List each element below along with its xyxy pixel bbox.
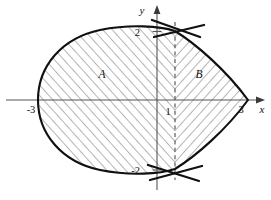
y-axis-arrowhead [154,5,161,14]
region-label-a: A [97,68,106,80]
y-tick-label-minus-2: -2 [131,165,140,176]
y-tick-label-2: 2 [135,27,140,38]
x-tick-label-minus-3: -3 [27,104,36,115]
figure-container: y x 2 -2 -3 3 1 A B [0,0,271,200]
x-axis-label: x [259,103,265,115]
x-tick-label-1: 1 [165,106,170,117]
region-label-b: B [195,68,202,80]
region-diagram: y x 2 -2 -3 3 1 A B [0,0,271,200]
y-axis-label: y [139,4,145,16]
x-tick-label-3: 3 [238,104,243,115]
